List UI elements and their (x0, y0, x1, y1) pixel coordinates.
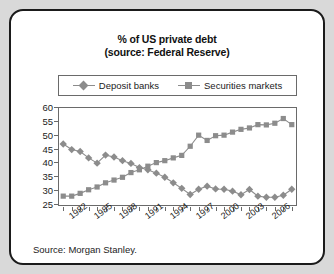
chart-legend: Deposit banksSecurities markets (58, 75, 297, 96)
data-point-square (137, 167, 142, 172)
data-point-square (247, 125, 252, 130)
data-point-square (171, 155, 176, 160)
data-point-square (238, 127, 243, 132)
data-point-diamond (119, 157, 126, 164)
data-point-diamond (153, 169, 160, 176)
y-tick-label: 60 (42, 103, 53, 112)
data-point-square (188, 144, 193, 149)
legend-item-label: Securities markets (204, 80, 282, 91)
y-tick-label: 50 (42, 130, 53, 139)
y-tick-label: 25 (42, 200, 53, 209)
y-tick-label: 30 (42, 186, 53, 195)
data-point-diamond (195, 186, 202, 193)
diamond-marker-icon (73, 81, 95, 91)
data-point-diamond (203, 182, 210, 189)
y-axis: 2530354045505560 (33, 103, 56, 210)
data-point-square (230, 130, 235, 135)
plot-svg (59, 108, 296, 205)
y-tick-label: 40 (42, 158, 53, 167)
data-point-square (255, 122, 260, 127)
data-point-square (120, 175, 125, 180)
chart-title: % of US private debt (source: Federal Re… (11, 33, 323, 59)
legend-item-label: Deposit banks (99, 80, 159, 91)
data-point-square (272, 121, 277, 126)
data-point-square (86, 187, 91, 192)
x-tick-mark (190, 207, 191, 211)
plot-area (58, 107, 297, 206)
x-tick-mark (266, 207, 267, 211)
y-tick-label: 45 (42, 144, 53, 153)
data-point-diamond (271, 194, 278, 201)
data-point-diamond (127, 160, 134, 167)
x-tick-mark (114, 207, 115, 211)
chart-title-line-2: (source: Federal Reserve) (11, 46, 323, 59)
data-point-diamond (170, 179, 177, 186)
data-point-diamond (288, 186, 295, 193)
data-point-square (213, 133, 218, 138)
data-point-diamond (187, 191, 194, 198)
data-point-square (69, 194, 74, 199)
chart-title-line-1: % of US private debt (11, 33, 323, 46)
series-securities-markets (61, 116, 295, 199)
data-point-square (111, 177, 116, 182)
data-point-diamond (178, 185, 185, 192)
data-point-square (162, 158, 167, 163)
data-point-square (128, 170, 133, 175)
data-point-diamond (68, 146, 75, 153)
legend-item-deposit-banks[interactable]: Deposit banks (73, 80, 159, 91)
data-point-diamond (280, 192, 287, 199)
data-point-diamond (161, 174, 168, 181)
data-point-square (205, 138, 210, 143)
data-point-diamond (60, 140, 67, 147)
data-point-diamond (229, 187, 236, 194)
y-tick-label: 55 (42, 116, 53, 125)
x-tick-mark (241, 207, 242, 211)
y-tick-label: 35 (42, 172, 53, 181)
series-deposit-banks (60, 140, 296, 201)
data-point-square (145, 164, 150, 169)
x-tick-mark (165, 207, 166, 211)
data-point-square (289, 122, 294, 127)
data-point-square (154, 160, 159, 165)
data-point-diamond (212, 185, 219, 192)
figure-card: % of US private debt (source: Federal Re… (9, 9, 325, 265)
data-point-square (94, 184, 99, 189)
data-point-square (264, 122, 269, 127)
data-point-diamond (110, 153, 117, 160)
data-point-square (61, 194, 66, 199)
x-tick-mark (63, 207, 64, 211)
source-note: Source: Morgan Stanley. (33, 244, 137, 255)
square-marker-icon (178, 81, 200, 91)
data-point-diamond (237, 191, 244, 198)
data-point-square (78, 191, 83, 196)
legend-item-securities-markets[interactable]: Securities markets (178, 80, 282, 91)
x-tick-mark (139, 207, 140, 211)
data-point-square (196, 133, 201, 138)
data-point-square (179, 153, 184, 158)
data-point-square (281, 116, 286, 121)
data-point-square (103, 180, 108, 185)
x-axis: 198219851988199119941997200020032006 (58, 207, 303, 241)
data-point-square (221, 133, 226, 138)
data-point-diamond (263, 194, 270, 201)
data-point-diamond (220, 186, 227, 193)
